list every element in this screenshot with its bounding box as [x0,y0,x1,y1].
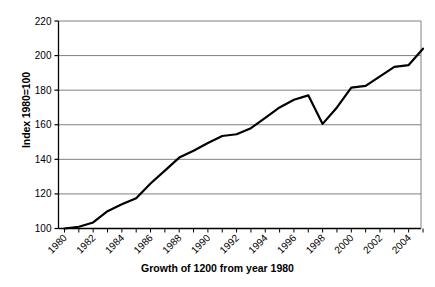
x-tick-label: 2002 [361,232,385,256]
y-tick-label: 140 [35,154,52,165]
y-tick-label: 100 [35,223,52,234]
y-tick-label: 220 [35,16,52,27]
x-axis-title: Growth of 1200 from year 1980 [0,262,435,274]
line-chart: Index 1980=100 100120140160180200220 198… [0,0,435,287]
x-tick-label: 1988 [160,232,184,256]
x-tick-label: 1982 [74,232,98,256]
data-line [65,49,424,229]
x-tick-group: 1980198219841986198819901992199419961998… [45,229,423,256]
plot-svg: 100120140160180200220 198019821984198619… [0,0,435,287]
x-tick-label: 1998 [304,232,328,256]
y-tick-group: 100120140160180200220 [35,16,59,235]
y-tick-label: 200 [35,50,52,61]
x-tick-label: 1980 [45,232,69,256]
x-tick-label: 1984 [103,232,127,256]
x-tick-label: 1994 [246,232,270,256]
y-tick-label: 180 [35,85,52,96]
data-series-group [65,49,424,229]
x-tick-label: 1990 [189,232,213,256]
x-tick-label: 2000 [332,232,356,256]
gridlines-group [59,56,422,194]
x-tick-label: 1992 [217,232,241,256]
x-tick-label: 1996 [275,232,299,256]
x-tick-label: 2004 [390,232,414,256]
x-tick-label: 1986 [131,232,155,256]
y-tick-label: 120 [35,188,52,199]
y-tick-label: 160 [35,119,52,130]
